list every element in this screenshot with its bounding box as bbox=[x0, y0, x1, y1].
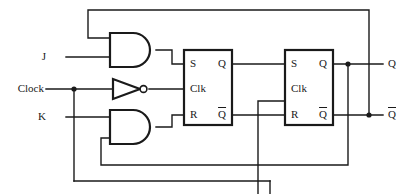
qbar-output-label: Q bbox=[388, 109, 396, 120]
wire-and-lower-to-ff1-r bbox=[156, 115, 184, 127]
clock-branch-junction bbox=[71, 86, 76, 91]
ff-master-pin-qbar-text: Q bbox=[218, 109, 226, 120]
and-gate-lower bbox=[110, 110, 150, 144]
ff-slave-pin-qbar-text: Q bbox=[319, 109, 327, 120]
qbar-output-text: Q bbox=[388, 109, 396, 120]
ff-master-pin-qbar: Q bbox=[218, 109, 226, 120]
ff-master-pin-clk: Clk bbox=[190, 83, 206, 94]
ff-master-pin-q: Q bbox=[218, 58, 226, 69]
ff-slave-pin-r: R bbox=[291, 109, 298, 120]
k-input-label: K bbox=[38, 111, 46, 122]
and-gate-upper bbox=[110, 33, 150, 67]
inverter-bubble-icon bbox=[140, 86, 147, 93]
wire-and-upper-to-ff1-s bbox=[156, 50, 184, 64]
ff-slave-pin-s: S bbox=[291, 58, 297, 69]
j-input-label: J bbox=[42, 51, 46, 62]
clock-input-label: Clock bbox=[18, 83, 44, 94]
ff-master-pin-r: R bbox=[190, 109, 197, 120]
schematic-canvas bbox=[0, 0, 412, 194]
ff-slave-pin-clk: Clk bbox=[291, 83, 307, 94]
inverter bbox=[113, 79, 140, 99]
qbar-feedback-junction bbox=[366, 112, 371, 117]
q-feedback-junction bbox=[345, 61, 350, 66]
circuit-diagram: J Clock K S Clk R Q Q S Clk R Q Q Q Q bbox=[0, 0, 412, 194]
ff-master-pin-s: S bbox=[190, 58, 196, 69]
ff-slave-pin-qbar: Q bbox=[319, 109, 327, 120]
q-output-label: Q bbox=[388, 58, 396, 69]
ff-slave-pin-q: Q bbox=[319, 58, 327, 69]
